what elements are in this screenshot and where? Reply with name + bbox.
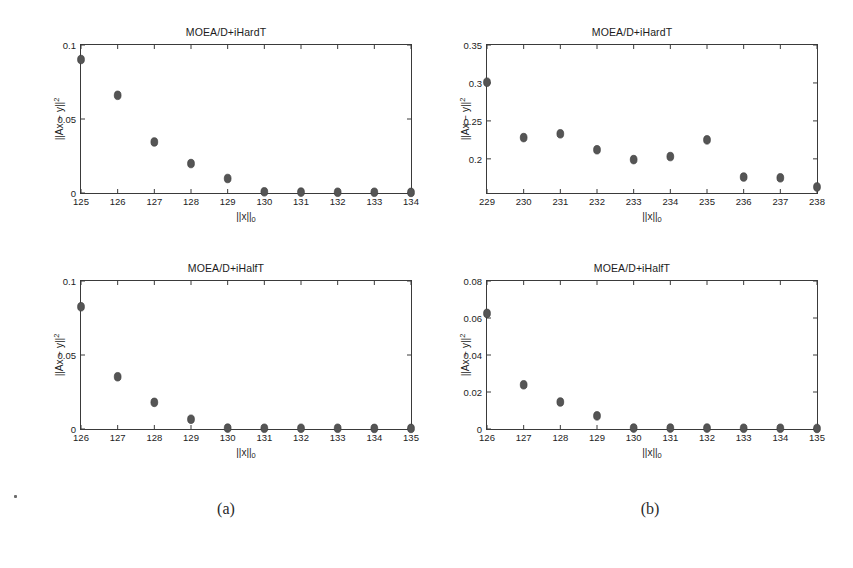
x-tick-label: 232 xyxy=(589,196,605,207)
x-tick-label: 134 xyxy=(403,196,419,207)
plot-svg xyxy=(487,45,817,193)
x-tick-label: 127 xyxy=(146,196,162,207)
y-tick-label: 0.25 xyxy=(464,115,483,126)
x-tick-label: 233 xyxy=(626,196,642,207)
x-tick-label: 235 xyxy=(699,196,715,207)
data-point xyxy=(261,188,268,197)
data-point xyxy=(704,136,711,145)
y-tick-label: 0.05 xyxy=(58,350,77,361)
x-tick-label: 126 xyxy=(110,196,126,207)
clipped-caption-strip xyxy=(0,562,853,568)
y-tick-label: 0 xyxy=(71,424,76,435)
x-tick-label: 131 xyxy=(293,196,309,207)
x-tick-label: 132 xyxy=(699,432,715,443)
data-point xyxy=(594,412,601,421)
x-tick-label: 135 xyxy=(403,432,419,443)
scan-speck xyxy=(14,495,17,498)
x-tick-label: 129 xyxy=(589,432,605,443)
plot-axes: ||Ax − y||2 ||x||0 126127128129130131132… xyxy=(486,280,818,430)
x-tick-label: 133 xyxy=(366,196,382,207)
plot-axes: ||Ax − y||2 ||x||0 126127128129130131132… xyxy=(80,280,412,430)
data-point xyxy=(114,372,121,381)
x-tick-label: 131 xyxy=(662,432,678,443)
plot-axes: ||Ax − y||2 ||x||0 229230231232233234235… xyxy=(486,44,818,194)
x-tick-label: 135 xyxy=(809,432,825,443)
x-tick-label: 127 xyxy=(516,432,532,443)
plot-svg xyxy=(487,281,817,429)
y-tick-label: 0.08 xyxy=(464,276,483,287)
y-tick-label: 0.1 xyxy=(63,276,76,287)
plot-svg xyxy=(81,45,411,193)
data-point xyxy=(520,133,527,142)
data-point xyxy=(814,183,821,192)
figure-canvas: MOEA/D+iHardT ||Ax − y||2 ||x||0 1251261… xyxy=(0,0,853,568)
data-point xyxy=(740,173,747,182)
x-tick-label: 230 xyxy=(516,196,532,207)
panel-bottom-right: MOEA/D+iHalfT ||Ax − y||2 ||x||0 1261271… xyxy=(432,258,832,504)
y-tick-label: 0.3 xyxy=(469,77,482,88)
y-tick-label: 0 xyxy=(71,188,76,199)
y-tick-label: 0 xyxy=(477,424,482,435)
x-tick-label: 127 xyxy=(110,432,126,443)
x-axis-label: ||x||0 xyxy=(236,211,256,224)
plot-title: MOEA/D+iHalfT xyxy=(432,262,832,274)
x-axis-label: ||x||0 xyxy=(642,211,662,224)
subfigure-caption-b: (b) xyxy=(641,500,660,518)
data-point xyxy=(557,130,564,139)
x-tick-label: 229 xyxy=(479,196,495,207)
y-tick-label: 0.06 xyxy=(464,313,483,324)
y-tick-label: 0.05 xyxy=(58,114,77,125)
x-tick-label: 134 xyxy=(366,432,382,443)
plot-title: MOEA/D+iHardT xyxy=(26,26,426,38)
data-point xyxy=(151,398,158,407)
x-tick-label: 130 xyxy=(220,432,236,443)
x-tick-label: 129 xyxy=(183,432,199,443)
data-point xyxy=(484,78,491,87)
x-tick-label: 130 xyxy=(626,432,642,443)
x-tick-label: 238 xyxy=(809,196,825,207)
y-tick-label: 0.02 xyxy=(464,387,483,398)
x-axis-label: ||x||0 xyxy=(236,447,256,460)
data-point xyxy=(484,309,491,318)
data-point xyxy=(224,174,231,183)
subfigure-caption-a: (a) xyxy=(217,500,235,518)
x-tick-label: 129 xyxy=(220,196,236,207)
y-tick-label: 0.1 xyxy=(63,40,76,51)
x-tick-label: 134 xyxy=(772,432,788,443)
data-point xyxy=(188,159,195,168)
y-tick-label: 0.04 xyxy=(464,350,483,361)
x-tick-label: 132 xyxy=(330,196,346,207)
x-tick-label: 236 xyxy=(736,196,752,207)
data-point xyxy=(667,152,674,161)
data-point xyxy=(188,415,195,424)
panel-top-left: MOEA/D+iHardT ||Ax − y||2 ||x||0 1251261… xyxy=(26,22,426,268)
x-tick-label: 132 xyxy=(293,432,309,443)
data-point xyxy=(630,155,637,164)
x-tick-label: 133 xyxy=(736,432,752,443)
x-tick-label: 130 xyxy=(256,196,272,207)
x-tick-label: 128 xyxy=(183,196,199,207)
data-point xyxy=(594,145,601,154)
data-point xyxy=(151,138,158,147)
x-tick-label: 231 xyxy=(552,196,568,207)
y-tick-label: 0.35 xyxy=(464,40,483,51)
plot-title: MOEA/D+iHalfT xyxy=(26,262,426,274)
y-tick-label: 0.2 xyxy=(469,153,482,164)
x-tick-label: 234 xyxy=(662,196,678,207)
x-tick-label: 128 xyxy=(146,432,162,443)
x-tick-label: 237 xyxy=(772,196,788,207)
data-point xyxy=(777,174,784,183)
x-tick-label: 131 xyxy=(256,432,272,443)
plot-svg xyxy=(81,281,411,429)
data-point xyxy=(78,55,85,64)
plot-title: MOEA/D+iHardT xyxy=(432,26,832,38)
data-point xyxy=(78,302,85,311)
data-point xyxy=(557,398,564,407)
data-point xyxy=(520,380,527,389)
data-point xyxy=(114,91,121,100)
panel-top-right: MOEA/D+iHardT ||Ax − y||2 ||x||0 2292302… xyxy=(432,22,832,268)
x-axis-label: ||x||0 xyxy=(642,447,662,460)
x-tick-label: 128 xyxy=(552,432,568,443)
clipped-caption-text xyxy=(425,562,428,568)
plot-axes: ||Ax − y||2 ||x||0 125126127128129130131… xyxy=(80,44,412,194)
